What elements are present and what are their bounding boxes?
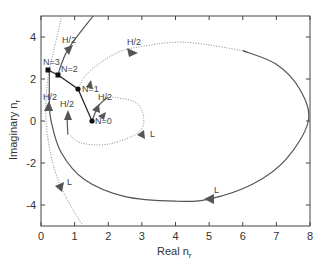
label-n3: N=3 (43, 57, 60, 67)
arrow-right-icon (127, 48, 138, 57)
point-n0 (89, 118, 94, 123)
label-n0: N=0 (95, 116, 112, 126)
point-n3 (46, 68, 51, 73)
label-n2: N=2 (61, 64, 78, 74)
plot-frame (41, 16, 310, 226)
annotation-l: L (67, 177, 72, 187)
annotation-l: L (150, 129, 155, 139)
y-tick-label: -2 (26, 157, 36, 169)
trajectory-series (46, 16, 309, 226)
x-tick-label: 2 (105, 230, 111, 242)
series-curve (78, 42, 243, 89)
annotation-h2: H/2 (62, 35, 76, 45)
y-tick-label: 2 (30, 73, 36, 85)
x-tick-label: 1 (72, 230, 78, 242)
annotation-l: L (214, 185, 219, 195)
y-tick-label: 4 (30, 31, 36, 43)
x-tick-label: 7 (273, 230, 279, 242)
arrow-up-icon (64, 110, 72, 120)
x-tick-label: 5 (206, 230, 212, 242)
label-n1: N=1 (82, 84, 99, 94)
x-tick-label: 4 (172, 230, 178, 242)
y-tick-label: -4 (26, 199, 36, 211)
arrow-left-icon (204, 194, 214, 204)
x-tick-label: 0 (38, 230, 44, 242)
arrow-down-icon (137, 130, 145, 139)
x-tick-label: 3 (139, 230, 145, 242)
x-tick-label: 8 (307, 230, 313, 242)
x-tick-label: 6 (240, 230, 246, 242)
y-tick-label: 0 (30, 115, 36, 127)
point-n2 (56, 73, 61, 78)
annotation-h2: H/2 (127, 37, 141, 47)
point-n1 (75, 86, 80, 91)
arrow-down-icon (55, 182, 64, 192)
chart: 012345678 420-2-4 N=0 N=1 N=2 N=3 H/2 H/… (0, 0, 327, 267)
annotation-h2: H/2 (98, 92, 112, 102)
series-curve (49, 51, 309, 202)
annotation-h2: H/2 (43, 92, 57, 102)
annotation-h2: H/2 (60, 99, 74, 109)
y-axis-label: Imaginary nr (7, 100, 22, 160)
x-axis-ticks: 012345678 (38, 16, 313, 242)
x-axis-label: Real nr (157, 245, 192, 260)
